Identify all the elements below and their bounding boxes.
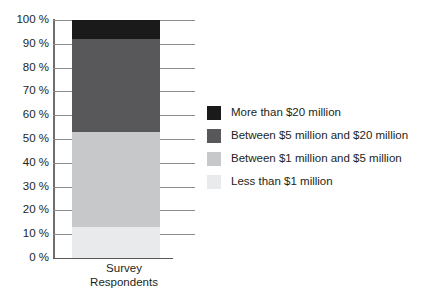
legend-swatch-0 (207, 106, 221, 120)
y-tick-label-30: 30 % (1, 181, 49, 193)
legend-item-3[interactable]: Less than $1 million (207, 170, 419, 193)
legend-swatch-2 (207, 152, 221, 166)
x-axis-label-line-2: Respondents (53, 276, 195, 290)
y-tick-label-90: 90 % (1, 38, 49, 50)
legend-label-3: Less than $1 million (231, 176, 333, 188)
legend-label-1: Between $5 million and $20 million (231, 130, 408, 142)
stacked-bar-survey-respondents[interactable] (72, 20, 160, 258)
y-tick-label-40: 40 % (1, 157, 49, 169)
legend-swatch-1 (207, 129, 221, 143)
legend-swatch-3 (207, 175, 221, 189)
legend-item-2[interactable]: Between $1 million and $5 million (207, 147, 419, 170)
x-axis-label-line-1: Survey (53, 262, 195, 276)
legend: More than $20 millionBetween $5 million … (207, 101, 419, 193)
legend-label-0: More than $20 million (231, 107, 341, 119)
y-tick-label-60: 60 % (1, 109, 49, 121)
y-tick-label-80: 80 % (1, 62, 49, 74)
x-axis-label: Survey Respondents (53, 262, 195, 289)
y-tick-label-50: 50 % (1, 133, 49, 145)
y-axis-tick-labels: 100 %90 %80 %70 %60 %50 %40 %30 %20 %10 … (0, 20, 49, 258)
bar-segment-0[interactable] (72, 20, 160, 39)
bar-segment-2[interactable] (72, 132, 160, 227)
plot-area (53, 20, 195, 258)
bar-segment-1[interactable] (72, 39, 160, 132)
stacked-bar-chart: 100 %90 %80 %70 %60 %50 %40 %30 %20 %10 … (0, 0, 422, 294)
y-tick-label-20: 20 % (1, 204, 49, 216)
bar-segment-3[interactable] (72, 227, 160, 258)
y-tick-label-10: 10 % (1, 228, 49, 240)
legend-item-0[interactable]: More than $20 million (207, 101, 419, 124)
legend-label-2: Between $1 million and $5 million (231, 153, 402, 165)
gridline-0 (53, 258, 173, 259)
y-tick-label-0: 0 % (1, 252, 49, 264)
legend-item-1[interactable]: Between $5 million and $20 million (207, 124, 419, 147)
y-tick-label-100: 100 % (1, 14, 49, 26)
y-tick-label-70: 70 % (1, 85, 49, 97)
